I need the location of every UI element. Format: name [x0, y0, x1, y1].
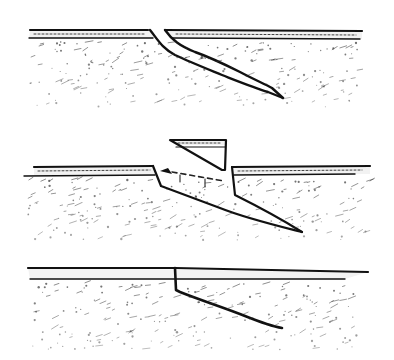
- surface-layer: [28, 268, 368, 279]
- panel-bottom-vertical-crack: [28, 268, 368, 328]
- surface-layer-right: [232, 166, 370, 175]
- ground-texture: [27, 41, 374, 351]
- surface-layer-right: [165, 30, 362, 39]
- arrow-head-icon: [160, 168, 172, 174]
- dashed-displacement-line: [160, 168, 224, 187]
- panel-middle-lifted-wedge: [24, 140, 370, 232]
- diagram-canvas: [0, 0, 394, 360]
- lifted-wedge: [170, 140, 226, 170]
- surface-layer-left: [29, 30, 155, 38]
- surface-layer-left: [24, 166, 155, 176]
